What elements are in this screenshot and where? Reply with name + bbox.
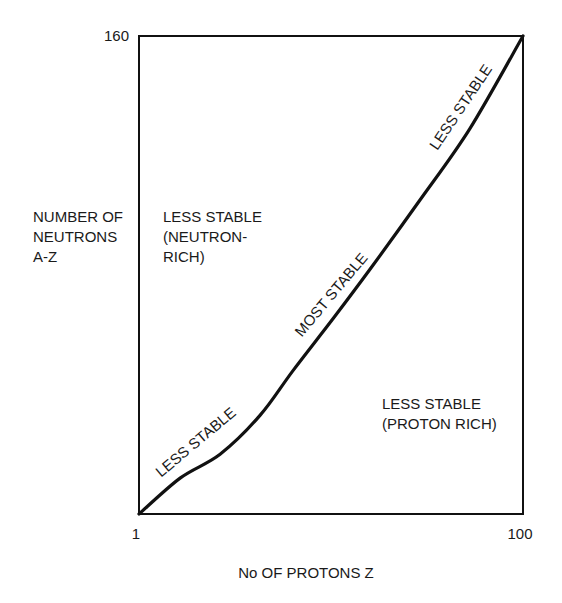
y-tick-label-160: 160 (104, 27, 129, 44)
x-axis-label: No OF PROTONS Z (238, 564, 374, 581)
region-label-proton-rich-line-1: LESS STABLE (382, 395, 481, 412)
y-axis-label-line-3: A-Z (33, 248, 57, 265)
chart: 160 1 100 NUMBER OF NEUTRONS A-Z No OF P… (0, 0, 562, 603)
region-label-neutron-rich-line-3: RICH) (163, 248, 205, 265)
x-tick-label-100: 100 (507, 525, 532, 542)
y-axis-label-line-1: NUMBER OF (33, 208, 123, 225)
region-label-neutron-rich-line-2: (NEUTRON- (163, 228, 247, 245)
x-tick-label-1: 1 (132, 525, 140, 542)
region-label-neutron-rich-line-1: LESS STABLE (163, 208, 262, 225)
curve-label-most-stable: MOST STABLE (291, 249, 371, 339)
curve-label-less-stable-high: LESS STABLE (426, 61, 495, 153)
y-axis-label-line-2: NEUTRONS (33, 228, 117, 245)
region-label-proton-rich-line-2: (PROTON RICH) (382, 415, 497, 432)
